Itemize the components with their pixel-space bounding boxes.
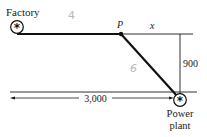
power-label-line1: Power [167,108,194,119]
svg-text:*: * [14,21,21,35]
point-p-dot [119,32,123,36]
svg-text:*: * [177,94,184,108]
horizontal-distance-label: 3,000 [84,93,107,104]
diagram-canvas: * * Factory P x 900 3,000 Power plant 4 … [0,0,207,137]
factory-label: Factory [6,6,40,18]
x-distance-label: x [149,20,155,31]
point-p-label: P [116,19,123,30]
power-label-line2: plant [170,120,191,131]
power-plant-asterisk-icon: * [174,94,187,108]
handwritten-annotation-6: 6 [130,62,137,75]
vertical-distance-label: 900 [183,58,198,69]
factory-asterisk-icon: * [11,21,24,35]
arrowhead-left-icon [10,97,15,100]
handwritten-annotation-4: 4 [68,9,75,22]
